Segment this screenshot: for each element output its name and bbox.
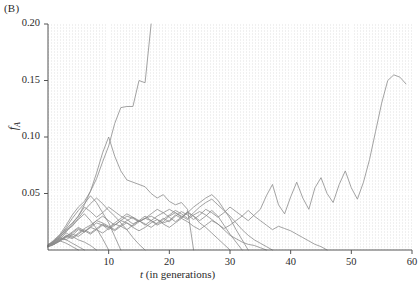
figure-panel-b: (B) fA t (in generations) 0.05 0.10 0.15… — [0, 0, 420, 287]
drift-trajectory-plot — [0, 0, 420, 287]
